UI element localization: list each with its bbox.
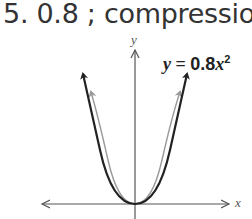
- eq-coefficient: 0.8: [190, 54, 215, 74]
- eq-equals: =: [176, 54, 186, 74]
- eq-exponent: 2: [224, 53, 230, 65]
- y-axis-label: y: [131, 32, 137, 48]
- x-axis-label: x: [235, 195, 241, 211]
- eq-x: x: [215, 54, 224, 74]
- equation-label: y = 0.8x2: [163, 53, 230, 75]
- eq-y: y: [163, 54, 171, 74]
- parabola-graph: [0, 0, 252, 219]
